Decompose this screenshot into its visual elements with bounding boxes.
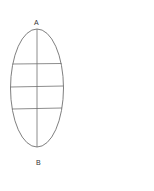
ellipse-diagram: A B <box>0 0 154 191</box>
horizontal-line-2 <box>11 86 64 87</box>
ellipse-figure <box>0 0 154 191</box>
horizontal-line-3 <box>12 108 62 109</box>
label-bottom-b: B <box>36 159 41 166</box>
label-top-a: A <box>34 19 39 26</box>
horizontal-line-1 <box>13 64 62 65</box>
